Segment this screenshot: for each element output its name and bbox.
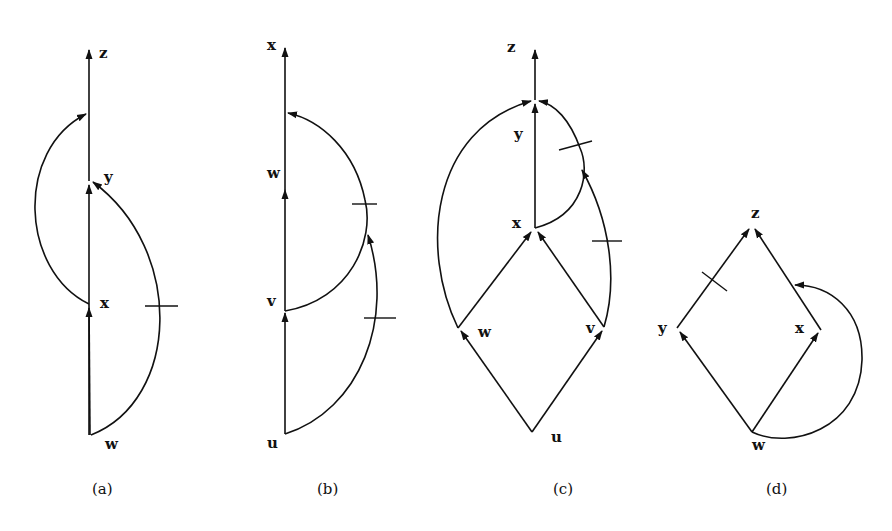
- node-label-v: v: [266, 292, 277, 310]
- edge-w-x: [752, 333, 818, 432]
- edge-mark-tick-upper: [559, 141, 592, 150]
- node-label-x: x: [512, 214, 522, 232]
- node-label-w: w: [266, 164, 281, 182]
- caption-a: (a): [92, 480, 113, 498]
- node-label-y: y: [657, 319, 668, 337]
- edge-u-v: [532, 331, 602, 432]
- node-label-z: z: [99, 44, 108, 62]
- node-label-y: y: [513, 125, 524, 143]
- arc-v-to-loop: [582, 170, 611, 327]
- edge-w-y: [680, 332, 752, 432]
- edge-x-z: [755, 229, 821, 330]
- arc-x-to-top: [535, 101, 584, 228]
- panel-d: z y x w (d): [657, 204, 862, 498]
- caption-c: (c): [553, 480, 573, 498]
- node-label-w: w: [104, 435, 119, 453]
- edge-v-x: [538, 232, 604, 327]
- caption-b: (b): [317, 480, 338, 498]
- node-label-y: y: [103, 168, 114, 186]
- node-label-u: u: [267, 434, 278, 452]
- panel-b: x w v u (b): [266, 36, 396, 498]
- node-label-w: w: [751, 436, 766, 454]
- panel-c: z y x w v u (c): [438, 38, 622, 498]
- node-label-x: x: [795, 319, 805, 337]
- node-label-w: w: [477, 323, 492, 341]
- caption-d: (d): [766, 480, 787, 498]
- node-label-z: z: [751, 204, 760, 222]
- node-label-z: z: [507, 38, 516, 56]
- figure-canvas: z y x w (a) x w v u (b): [0, 0, 892, 531]
- arc-u-to-arc: [285, 235, 377, 434]
- node-label-x: x: [100, 294, 110, 312]
- panel-a: z y x w (a): [35, 44, 178, 498]
- node-label-u: u: [551, 428, 562, 446]
- node-label-v: v: [585, 319, 596, 337]
- edge-w-x: [458, 232, 531, 328]
- edge-y-z: [677, 229, 749, 328]
- node-label-x: x: [267, 36, 277, 54]
- edge-u-w: [461, 331, 532, 432]
- arc-x-to-line: [35, 114, 89, 304]
- arc-v-to-line: [285, 113, 367, 311]
